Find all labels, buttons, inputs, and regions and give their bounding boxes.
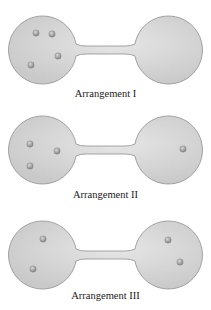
- two-bulb-flask-diagram: [0, 100, 211, 203]
- arrangement-3: Arrangement III: [0, 205, 211, 308]
- left-bulb-particle: [28, 62, 34, 68]
- left-bulb-particle: [40, 236, 46, 242]
- flask-outline: [9, 16, 203, 84]
- left-bulb-particle: [27, 163, 33, 169]
- left-bulb-particle: [27, 141, 33, 147]
- left-bulb-particle: [54, 148, 60, 154]
- left-bulb-particle: [33, 30, 39, 36]
- left-bulb-particle: [30, 266, 36, 272]
- flask-outline: [9, 116, 203, 184]
- right-bulb-particle: [165, 237, 171, 243]
- flask-outline: [9, 221, 203, 289]
- right-bulb-particle: [180, 146, 186, 152]
- arrangement-1: Arrangement I: [0, 0, 211, 103]
- left-bulb-particle: [55, 53, 61, 59]
- arrangement-label: Arrangement III: [0, 290, 211, 301]
- arrangement-label: Arrangement II: [0, 189, 211, 200]
- right-bulb-particle: [177, 259, 183, 265]
- left-bulb-particle: [49, 31, 55, 37]
- arrangement-2: Arrangement II: [0, 100, 211, 203]
- arrangement-label: Arrangement I: [0, 88, 211, 99]
